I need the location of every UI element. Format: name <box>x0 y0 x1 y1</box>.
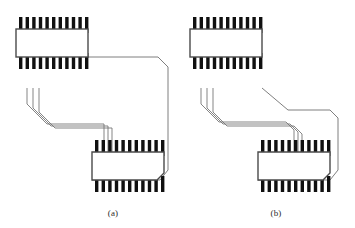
chip-a-top <box>16 17 88 69</box>
pcb-routing-diagram: (a)(b) <box>0 0 355 228</box>
panel-a-trace-3 <box>39 88 112 152</box>
chip-a-top-body <box>16 29 88 57</box>
chip-a-bottom-body <box>92 152 164 180</box>
panel-b-trace-1 <box>201 88 294 152</box>
chip-b-top <box>190 17 262 69</box>
figure-root: (a)(b) <box>0 0 355 228</box>
chip-b-bottom-body <box>258 152 330 180</box>
chip-a-bottom <box>92 140 164 192</box>
diagram-content: (a)(b) <box>16 17 338 218</box>
panel-b: (b) <box>190 17 338 218</box>
panel-b-caption: (b) <box>270 208 281 218</box>
panel-a-caption: (a) <box>108 208 119 218</box>
panel-a: (a) <box>16 17 168 218</box>
panel-a-trace-1 <box>27 88 104 152</box>
chip-b-top-body <box>190 29 262 57</box>
chip-a-bottom-bottom-pin-11 <box>161 176 164 192</box>
chip-b-bottom-bottom-pin-11 <box>327 176 330 192</box>
chip-b-bottom <box>258 140 330 192</box>
